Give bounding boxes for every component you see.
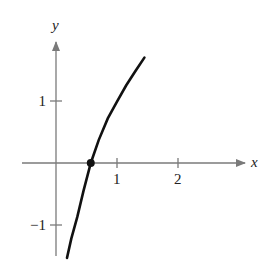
x-axis-label: x — [250, 154, 258, 170]
y-axis-label: y — [50, 17, 59, 33]
y-tick-label: 1 — [39, 93, 47, 109]
y-tick-label: −1 — [30, 217, 46, 233]
function-graph: 12 1−1 x y — [0, 0, 270, 269]
x-intercept-point — [87, 159, 95, 167]
curve-line — [67, 58, 144, 258]
x-tick-label: 2 — [174, 171, 182, 187]
x-tick-label: 1 — [113, 171, 121, 187]
